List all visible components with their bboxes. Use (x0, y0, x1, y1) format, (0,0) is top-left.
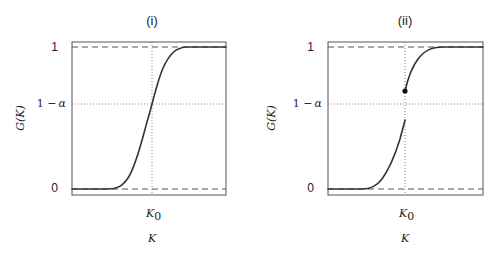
panel-ii-xtick-k0: K0 (398, 207, 414, 223)
panel-ii-ytick-1: 1 (307, 40, 314, 54)
panel-ii-cdf-left-branch (328, 120, 405, 189)
panel-i-ytick-0: 0 (51, 181, 58, 195)
panel-ii-plot-frame (328, 42, 483, 195)
panel-i-ytick-one-minus-alpha: 1 −α (37, 97, 67, 110)
panel-i-title: (i) (146, 13, 158, 28)
panel-ii-ylabel: G(K) (265, 105, 278, 131)
panel-i-cdf-curve (72, 47, 226, 189)
panel-ii-jump-point (402, 88, 407, 93)
panel-i-ylabel: G(K) (14, 105, 27, 131)
panel-ii-ytick-0: 0 (307, 181, 314, 195)
panel-i-xlabel: K (147, 232, 157, 245)
panel-i-xtick-k0: K0 (145, 207, 161, 223)
panel-ii: (ii) 1 1 −α 0 G(K) K0 K (265, 13, 483, 245)
panel-i: (i) 1 1 −α 0 G(K) K0 K (14, 13, 226, 245)
panel-ii-xlabel: K (400, 232, 410, 245)
panel-ii-title: (ii) (398, 13, 412, 28)
panel-i-plot-frame (72, 42, 226, 195)
panel-i-ytick-1: 1 (51, 40, 58, 54)
figure: (i) 1 1 −α 0 G(K) K0 K (ii) (0, 0, 491, 253)
panel-ii-cdf-right-branch (405, 47, 483, 91)
panel-ii-ytick-one-minus-alpha: 1 −α (293, 97, 323, 110)
